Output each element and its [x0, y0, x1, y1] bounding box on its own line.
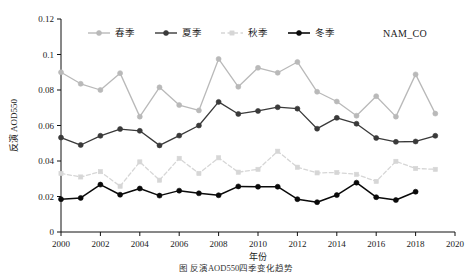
data-point [413, 189, 418, 194]
data-point [78, 143, 83, 148]
legend-label: 夏季 [182, 27, 202, 38]
data-point [177, 156, 181, 160]
chart-background [0, 0, 473, 276]
data-point [118, 127, 123, 132]
data-point [295, 59, 300, 64]
data-point [157, 85, 162, 90]
data-point [433, 167, 437, 171]
x-tick-label: 2008 [210, 239, 229, 249]
data-point [393, 198, 398, 203]
data-point [315, 89, 320, 94]
data-point [59, 135, 64, 140]
data-point [374, 94, 379, 99]
y-tick-label: 0.02 [38, 192, 54, 202]
data-point [196, 191, 201, 196]
data-point [275, 70, 280, 75]
data-point [374, 179, 378, 183]
data-point [433, 111, 438, 116]
x-tick-label: 2018 [407, 239, 426, 249]
y-tick-label: 0 [50, 227, 55, 237]
data-point [393, 114, 398, 119]
data-point [334, 193, 339, 198]
x-tick-label: 2010 [249, 239, 268, 249]
x-tick-label: 2020 [446, 239, 465, 249]
y-axis-title: 反演 AOD550 [8, 98, 19, 152]
data-point [216, 99, 221, 104]
legend-swatch-marker [230, 31, 234, 35]
data-point [354, 121, 359, 126]
data-point [256, 167, 260, 171]
x-axis-title: 年份 [249, 251, 267, 262]
data-point [295, 197, 300, 202]
data-point [354, 180, 359, 185]
legend-swatch-marker [164, 31, 169, 36]
x-tick-label: 2014 [328, 239, 347, 249]
y-tick-label: 0.1 [43, 50, 54, 60]
data-point [157, 178, 161, 182]
data-point [196, 108, 201, 113]
data-point [217, 156, 221, 160]
data-point [414, 166, 418, 170]
data-point [98, 88, 103, 93]
y-tick-label: 0.12 [38, 14, 54, 24]
line-chart: 00.020.040.060.080.10.122000200220042006… [0, 0, 473, 276]
data-point [315, 171, 319, 175]
y-tick-label: 0.08 [38, 85, 54, 95]
x-tick-label: 2016 [367, 239, 386, 249]
data-point [197, 171, 201, 175]
data-point [393, 139, 398, 144]
data-point [137, 186, 142, 191]
data-point [275, 105, 280, 110]
data-point [276, 149, 280, 153]
data-point [177, 188, 182, 193]
x-tick-label: 2004 [131, 239, 150, 249]
legend-label: 春季 [115, 27, 135, 38]
figure-caption: 图 反演AOD550四季变化趋势 [179, 263, 293, 273]
data-point [275, 184, 280, 189]
data-point [157, 143, 162, 148]
data-point [256, 184, 261, 189]
data-point [59, 70, 64, 75]
data-point [354, 172, 358, 176]
chart-figure: 00.020.040.060.080.10.122000200220042006… [0, 0, 473, 276]
panel-label: NAM_CO [383, 28, 427, 39]
data-point [118, 192, 123, 197]
data-point [137, 114, 142, 119]
y-tick-label: 0.04 [38, 156, 54, 166]
y-tick-label: 0.06 [38, 121, 54, 131]
data-point [98, 133, 103, 138]
data-point [433, 133, 438, 138]
legend-label: 秋季 [248, 27, 268, 38]
data-point [59, 197, 64, 202]
data-point [216, 193, 221, 198]
legend-swatch-marker [97, 31, 102, 36]
data-point [374, 195, 379, 200]
data-point [98, 170, 102, 174]
x-tick-label: 2002 [91, 239, 109, 249]
data-point [118, 71, 123, 76]
data-point [256, 65, 261, 70]
data-point [177, 133, 182, 138]
data-point [315, 126, 320, 131]
data-point [315, 200, 320, 205]
x-tick-label: 2000 [52, 239, 71, 249]
data-point [295, 165, 299, 169]
x-tick-label: 2012 [288, 239, 306, 249]
data-point [334, 115, 339, 120]
data-point [79, 175, 83, 179]
data-point [138, 160, 142, 164]
data-point [335, 170, 339, 174]
x-tick-label: 2006 [170, 239, 189, 249]
data-point [216, 56, 221, 61]
data-point [177, 103, 182, 108]
data-point [78, 195, 83, 200]
data-point [413, 139, 418, 144]
data-point [236, 170, 240, 174]
data-point [413, 72, 418, 77]
data-point [394, 159, 398, 163]
data-point [157, 193, 162, 198]
data-point [137, 128, 142, 133]
data-point [118, 184, 122, 188]
data-point [295, 106, 300, 111]
data-point [334, 99, 339, 104]
